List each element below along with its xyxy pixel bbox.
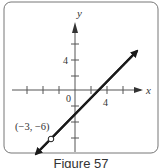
figure-caption: Figure 57 — [0, 157, 162, 168]
x-axis-label: x — [145, 84, 151, 96]
y-axis-label: y — [76, 7, 82, 19]
x-tick-label-4: 4 — [103, 97, 108, 108]
point-label: (−3, −6) — [15, 121, 50, 133]
coordinate-plane: y x 0 4 4 (−3, −6) — [0, 0, 162, 168]
y-tick-label-4: 4 — [63, 55, 68, 66]
open-circle-point — [48, 136, 54, 142]
origin-label: 0 — [66, 93, 71, 104]
figure: y x 0 4 4 (−3, −6) Figure 57 — [0, 0, 162, 168]
